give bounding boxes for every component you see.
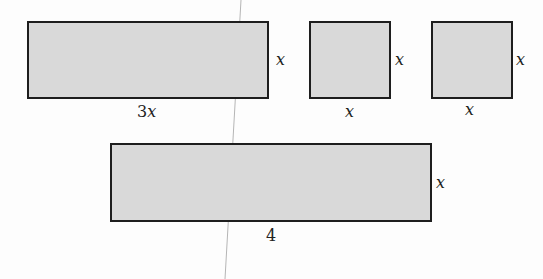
square2-width-label: x [465,102,474,118]
rect4-width-label: 4 [266,228,276,244]
square2-height-label: x [516,52,525,68]
rect-4-by-x [110,143,432,222]
rect4-height-label: x [436,175,445,191]
square1-width-label: x [345,104,354,120]
square-2 [431,21,513,99]
algebra-tiles-diagram: x 3x x x x x x 4 [0,0,543,279]
rect-3x-by-x [27,21,269,99]
square1-height-label: x [395,52,404,68]
rect1-height-label: x [276,52,285,68]
rect1-width-label: 3x [137,104,156,120]
square-1 [309,21,391,99]
